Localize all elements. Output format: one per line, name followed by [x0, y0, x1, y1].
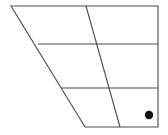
marker-dot: [145, 111, 153, 119]
geometry-figure: [0, 0, 168, 135]
trapezoid-outline: [11, 6, 158, 127]
figure-canvas: [0, 0, 168, 135]
